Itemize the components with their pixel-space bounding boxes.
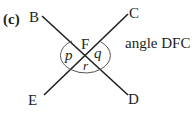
point-label-D: D: [128, 92, 139, 107]
angle-label-q: q: [94, 46, 102, 61]
point-label-C: C: [129, 6, 139, 21]
point-label-F: F: [81, 37, 89, 52]
point-label-B: B: [29, 10, 39, 25]
part-label: (c): [3, 12, 20, 27]
caption-angle-dfc: angle DFC: [125, 36, 190, 51]
point-label-E: E: [28, 93, 37, 108]
angle-arc-q: [101, 42, 110, 69]
angle-label-r: r: [83, 58, 88, 73]
angle-label-p: p: [65, 48, 73, 63]
